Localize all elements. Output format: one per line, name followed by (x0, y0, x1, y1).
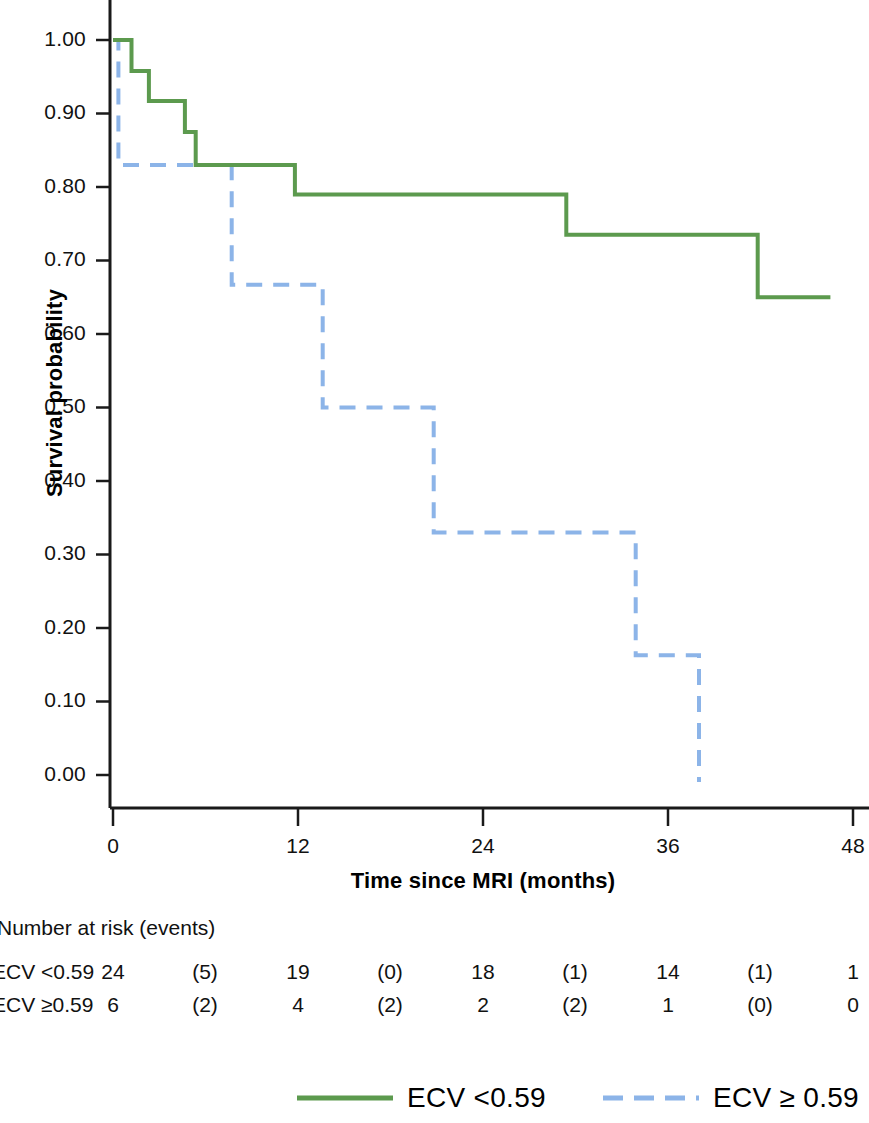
risk-cell-events-0: (5) (181, 960, 229, 984)
legend-line-dashed-icon (603, 1087, 699, 1109)
risk-cell-atrisk-2: 2 (459, 993, 507, 1017)
legend-label-ecv-high: ECV ≥ 0.59 (713, 1082, 859, 1114)
legend-line-solid-icon (297, 1087, 393, 1109)
ytick-label-0.10: 0.10 (8, 688, 86, 712)
risk-cell-events-3: (0) (736, 993, 784, 1017)
risk-cell-atrisk-3: 1 (644, 993, 692, 1017)
xtick-label-0: 0 (83, 834, 143, 858)
kaplan-meier-figure: 1.00 0.90 0.80 0.70 0.60 0.50 0.40 0.30 … (0, 0, 869, 1123)
ytick-label-0.80: 0.80 (8, 174, 86, 198)
risk-row-label: ECV ≥0.59 (0, 993, 93, 1017)
ytick-label-0.90: 0.90 (8, 100, 86, 124)
risk-cell-atrisk-1: 19 (274, 960, 322, 984)
ytick-label-1.00: 1.00 (8, 27, 86, 51)
plot-canvas (0, 0, 869, 1123)
risk-table-row-ecv-high: ECV ≥0.59 6 (2) 4 (2) 2 (2) 1 (0) 0 (0, 993, 869, 1021)
y-tick-marks (96, 40, 110, 775)
survival-curve-ecv-high (113, 40, 699, 782)
xtick-label-48: 48 (823, 834, 869, 858)
risk-table-row-ecv-low: ECV <0.59 24 (5) 19 (0) 18 (1) 14 (1) 1 (0, 960, 869, 988)
risk-cell-events-0: (2) (181, 993, 229, 1017)
xtick-label-12: 12 (268, 834, 328, 858)
xtick-label-36: 36 (638, 834, 698, 858)
legend-entry-ecv-low[interactable]: ECV <0.59 (297, 1078, 546, 1118)
risk-cell-events-1: (2) (366, 993, 414, 1017)
risk-cell-atrisk-0: 24 (89, 960, 137, 984)
ytick-label-0.30: 0.30 (8, 541, 86, 565)
risk-cell-events-2: (1) (551, 960, 599, 984)
risk-table-title: Number at risk (events) (0, 916, 215, 940)
x-axis-title: Time since MRI (months) (113, 868, 853, 894)
y-axis-title: Survival probability (42, 243, 68, 543)
risk-row-label: ECV <0.59 (0, 960, 94, 984)
risk-cell-atrisk-3: 14 (644, 960, 692, 984)
chart-legend: ECV <0.59 ECV ≥ 0.59 (0, 1078, 869, 1123)
x-tick-marks (113, 808, 853, 826)
risk-cell-events-2: (2) (551, 993, 599, 1017)
risk-cell-atrisk-2: 18 (459, 960, 507, 984)
survival-curve-ecv-low (113, 40, 830, 297)
risk-cell-atrisk-1: 4 (274, 993, 322, 1017)
risk-cell-events-3: (1) (736, 960, 784, 984)
legend-entry-ecv-high[interactable]: ECV ≥ 0.59 (603, 1078, 859, 1118)
risk-cell-atrisk-0: 6 (89, 993, 137, 1017)
legend-label-ecv-low: ECV <0.59 (407, 1082, 546, 1114)
ytick-label-0.20: 0.20 (8, 615, 86, 639)
risk-cell-events-1: (0) (366, 960, 414, 984)
risk-cell-atrisk-4: 1 (829, 960, 869, 984)
risk-cell-atrisk-4: 0 (829, 993, 869, 1017)
ytick-label-0.00: 0.00 (8, 762, 86, 786)
xtick-label-24: 24 (453, 834, 513, 858)
